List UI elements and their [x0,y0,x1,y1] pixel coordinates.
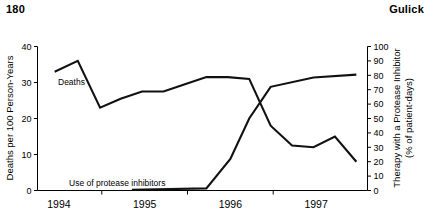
right-tick-label: 90 [374,56,384,66]
right-tick-label: 30 [374,143,384,153]
line-chart: 010203040 0102030405060708090100 1994199… [0,26,432,218]
page-number: 180 [6,3,25,15]
left-tick-label: 40 [21,42,31,52]
left-tick-label: 30 [21,78,31,88]
left-tick-label: 10 [21,150,31,160]
left-tick-label: 0 [26,186,31,196]
x-axis-labels: 1994199519961997 [47,198,328,210]
right-tick-label: 20 [374,157,384,167]
right-tick-label: 50 [374,114,384,124]
right-axis-title-line2: (% of patient-days) [403,78,414,158]
left-tick-label: 20 [21,114,31,124]
protease-inhibitor-series-label: Use of protease inhibitors [69,178,165,188]
deaths-series-line [55,61,357,162]
chart-figure: 010203040 0102030405060708090100 1994199… [0,26,432,218]
right-tick-label: 40 [374,128,384,138]
deaths-series-label: Deaths [58,77,85,87]
right-tick-label: 100 [374,42,389,52]
x-axis-ticks [102,191,273,195]
x-axis-year-label: 1995 [133,198,157,210]
right-axis-ticks: 0102030405060708090100 [368,42,389,196]
running-head-author: Gulick [389,3,424,15]
right-tick-label: 60 [374,99,384,109]
x-axis-year-label: 1994 [47,198,71,210]
page-header: 180 Gulick [0,0,432,26]
right-tick-label: 80 [374,71,384,81]
right-tick-label: 0 [374,186,379,196]
right-axis-title-line1: Therapy with a Protease Inhibitor [391,48,402,187]
x-axis-year-label: 1996 [219,198,243,210]
left-axis-ticks: 010203040 [21,42,37,196]
right-tick-label: 10 [374,171,384,181]
left-axis-title: Deaths per 100 Person-Years [4,55,15,180]
right-tick-label: 70 [374,85,384,95]
x-axis-year-label: 1997 [304,198,328,210]
